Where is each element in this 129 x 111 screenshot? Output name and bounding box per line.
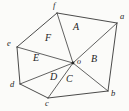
edge-d-e <box>17 47 20 84</box>
hexagon-boundary <box>17 13 117 98</box>
edge-f-a <box>57 13 117 23</box>
spoke-o-a <box>73 23 117 63</box>
vertex-dot-o <box>72 62 75 65</box>
spoke-o-f <box>57 13 73 63</box>
vertex-dots <box>72 62 75 65</box>
interior-spokes <box>17 13 117 98</box>
geometry-figure: a b c d e f o A B C D E F <box>0 0 129 111</box>
spoke-o-b <box>73 63 108 91</box>
diagram-canvas <box>0 0 129 111</box>
edge-c-d <box>20 84 48 98</box>
spoke-o-e <box>17 47 73 63</box>
edge-a-b <box>108 23 117 91</box>
edge-e-f <box>17 13 57 47</box>
edge-b-c <box>48 91 108 98</box>
